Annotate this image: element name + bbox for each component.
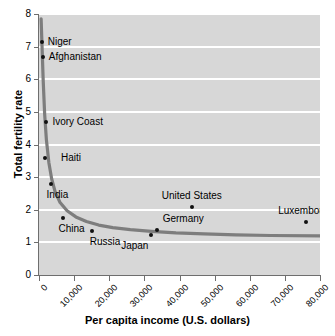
x-axis-tick-label: 20,000: [94, 283, 120, 309]
data-point[interactable]: [44, 120, 48, 124]
gridline: [39, 176, 320, 178]
y-axis-tick: [34, 145, 39, 146]
y-axis-tick: [34, 112, 39, 113]
y-axis-tick: [34, 210, 39, 211]
gridline: [39, 46, 320, 48]
data-point-label: Germany: [163, 214, 204, 224]
x-axis-tick: [285, 276, 286, 281]
data-point-label: Japan: [121, 241, 148, 251]
data-point[interactable]: [304, 220, 308, 224]
x-axis-tick: [144, 276, 145, 281]
x-axis-tick-label: 70,000: [269, 283, 295, 309]
x-axis-tick-label: 80,000: [305, 283, 331, 309]
y-axis-title: Total fertility rate: [12, 54, 24, 214]
x-axis-tick: [215, 276, 216, 281]
data-point[interactable]: [155, 228, 159, 232]
x-axis-tick: [250, 276, 251, 281]
y-axis-tick: [34, 177, 39, 178]
x-axis-title: Per capita income (U.S. dollars): [0, 314, 335, 326]
data-point-label: Afghanistan: [49, 52, 102, 62]
x-axis-tick: [74, 276, 75, 281]
data-point-label: United States: [162, 191, 222, 201]
data-point[interactable]: [149, 233, 153, 237]
data-point[interactable]: [40, 40, 44, 44]
y-axis-tick-label: 7: [0, 42, 31, 52]
y-axis-tick-label: 8: [0, 9, 31, 19]
data-point[interactable]: [49, 182, 53, 186]
x-axis-tick: [320, 276, 321, 281]
x-axis-tick: [109, 276, 110, 281]
data-point-label: Ivory Coast: [52, 117, 103, 127]
data-point[interactable]: [61, 216, 65, 220]
y-axis-tick: [34, 242, 39, 243]
data-point[interactable]: [90, 229, 94, 233]
y-axis-tick: [34, 14, 39, 15]
data-point-label: China: [59, 224, 85, 234]
gridline: [39, 14, 320, 15]
plot-area: NigerAfghanistanIvory CoastHaitiIndiaChi…: [39, 14, 320, 275]
x-axis-tick-label: 50,000: [199, 283, 225, 309]
scatter-chart-figure: NigerAfghanistanIvory CoastHaitiIndiaChi…: [0, 0, 335, 336]
x-axis-tick-label: 10,000: [59, 283, 85, 309]
x-axis-tick-label: 60,000: [234, 283, 260, 309]
y-axis-tick-label: 1: [0, 237, 31, 247]
x-axis-tick-label: 30,000: [129, 283, 155, 309]
x-axis-tick: [39, 276, 40, 281]
gridline: [39, 78, 320, 80]
x-axis-tick: [180, 276, 181, 281]
x-axis-tick-label: 40,000: [164, 283, 190, 309]
data-point-label: India: [47, 190, 69, 200]
x-axis-tick-label: 0: [39, 283, 49, 293]
y-axis-tick: [34, 47, 39, 48]
y-axis-tick: [34, 79, 39, 80]
data-point-label: Haiti: [61, 153, 81, 163]
data-point[interactable]: [43, 156, 47, 160]
data-point-label: Russia: [90, 237, 121, 247]
gridline: [39, 241, 320, 243]
data-point[interactable]: [190, 205, 194, 209]
data-point[interactable]: [41, 55, 45, 59]
data-point-label: Luxembourg: [278, 206, 320, 216]
data-point-label: Niger: [48, 37, 72, 47]
y-axis-tick-label: 0: [0, 270, 31, 280]
gridline: [39, 111, 320, 113]
gridline: [39, 144, 320, 146]
